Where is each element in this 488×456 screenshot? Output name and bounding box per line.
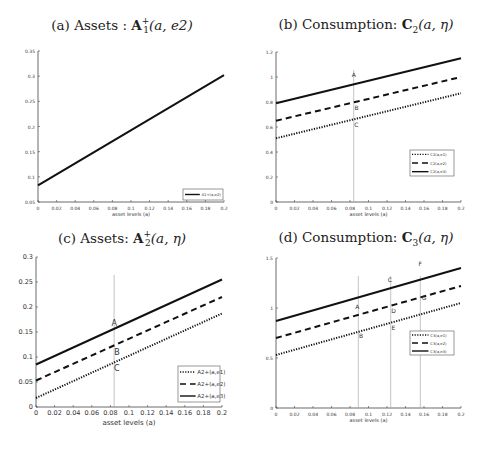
x-tick-label: 0.02	[47, 409, 61, 417]
x-tick-label: 0.2	[217, 409, 227, 417]
y-tick-label: 1	[270, 75, 273, 80]
legend-entry: C2(a,e1)	[430, 152, 447, 157]
x-tick-label: 0.04	[308, 412, 318, 417]
point-label: B	[114, 348, 120, 357]
legend-entry: C3(a,e2)	[430, 341, 447, 346]
y-tick-label: 0.6	[266, 125, 273, 130]
x-tick-label: 0.14	[400, 206, 410, 211]
x-tick-label: 0.2	[457, 206, 464, 211]
y-tick-label: 0.3	[28, 74, 35, 79]
point-label: A	[111, 319, 117, 328]
x-tick-label: 0.08	[103, 409, 117, 417]
y-tick-label: 0.2	[23, 303, 33, 311]
y-tick-label: 0.25	[25, 99, 35, 104]
panel-b: (b) Consumption: C2(a, η) 00.020.040.060…	[244, 0, 488, 228]
y-tick-label: 0.05	[19, 378, 33, 386]
panel-a: (a) Assets : A+1(a, e2) 00.020.040.060.0…	[0, 0, 244, 228]
x-tick-label: 0.1	[124, 409, 134, 417]
series-line-dotted	[276, 93, 461, 138]
x-tick-label: 0	[34, 409, 38, 417]
x-tick-label: 0.16	[178, 409, 192, 417]
plot-b: 00.020.040.060.080.10.120.140.160.180.20…	[244, 0, 488, 228]
legend-entry: A1+(a,e2)	[201, 192, 221, 197]
x-tick-label: 0.18	[437, 412, 447, 417]
plot-a: 00.020.040.060.080.10.120.140.160.180.20…	[0, 0, 244, 228]
x-tick-label: 0.02	[52, 206, 62, 211]
x-tick-label: 0.06	[326, 206, 336, 211]
y-tick-label: 0.8	[266, 100, 273, 105]
plot-c: 00.020.040.060.080.10.120.140.160.180.20…	[0, 228, 244, 456]
x-tick-label: 0	[37, 206, 40, 211]
x-tick-label: 0	[275, 412, 278, 417]
legend-entry: A2+(a,e3)	[197, 393, 225, 399]
y-tick-label: 0.35	[25, 49, 35, 54]
series-line-solid	[276, 58, 461, 103]
x-tick-label: 0.2	[220, 206, 227, 211]
x-axis-label: asset levels (a)	[112, 211, 150, 217]
x-axis-label: asset levels (a)	[102, 419, 155, 427]
x-tick-label: 0.12	[140, 409, 154, 417]
y-tick-label: 0.5	[266, 356, 273, 361]
point-label: G	[422, 294, 427, 301]
y-tick-label: 0	[29, 403, 33, 411]
y-tick-label: 1	[270, 306, 273, 311]
y-tick-label: 1.2	[266, 50, 273, 55]
x-tick-label: 0.18	[200, 206, 210, 211]
x-tick-label: 0.06	[89, 206, 99, 211]
x-axis-label: asset levels (a)	[350, 211, 388, 217]
point-label: B	[359, 332, 363, 339]
legend-entry: A2+(a,e1)	[197, 369, 225, 375]
x-tick-label: 0.14	[163, 206, 173, 211]
point-label: C	[114, 364, 120, 373]
y-tick-label: 0.1	[28, 175, 35, 180]
y-tick-label: 0.25	[19, 278, 33, 286]
x-tick-label: 0.16	[419, 412, 429, 417]
panel-d: (d) Consumption: C3(a, η) 00.020.040.060…	[244, 228, 488, 456]
y-tick-label: 1.5	[266, 256, 273, 261]
point-label: D	[391, 307, 396, 314]
x-tick-label: 0.2	[457, 412, 464, 417]
point-label: E	[392, 324, 396, 331]
x-tick-label: 0.16	[182, 206, 192, 211]
x-tick-label: 0	[275, 206, 278, 211]
point-label: F	[419, 260, 423, 267]
y-tick-label: 0.05	[25, 200, 35, 205]
x-tick-label: 0.16	[419, 206, 429, 211]
point-label: C	[354, 121, 358, 128]
point-label: B	[354, 104, 358, 111]
y-tick-label: 0	[270, 200, 273, 205]
point-label: A	[355, 303, 360, 310]
y-tick-label: 0.15	[19, 328, 33, 336]
x-tick-label: 0.18	[437, 206, 447, 211]
plot-d: 00.020.040.060.080.10.120.140.160.180.20…	[244, 228, 488, 456]
x-tick-label: 0.04	[70, 206, 80, 211]
y-tick-label: 0.2	[266, 175, 273, 180]
x-tick-label: 0.04	[308, 206, 318, 211]
y-tick-label: 0.1	[23, 353, 33, 361]
y-tick-label: 0.15	[25, 150, 35, 155]
legend-entry: C3(a,e3)	[430, 349, 447, 354]
x-tick-label: 0.02	[289, 206, 299, 211]
x-tick-label: 0.18	[196, 409, 210, 417]
series-line-dashed	[276, 77, 461, 121]
y-tick-label: 0.3	[23, 253, 33, 261]
legend-entry: C2(a,e3)	[430, 169, 447, 174]
series-line-solid	[38, 75, 224, 185]
legend-entry: A2+(a,e2)	[197, 381, 225, 387]
x-tick-label: 0.06	[326, 412, 336, 417]
y-tick-label: 0.4	[266, 150, 273, 155]
x-tick-label: 0.06	[85, 409, 99, 417]
legend-entry: C3(a,e1)	[430, 333, 447, 338]
panel-c: (c) Assets: A+2(a, η) 00.020.040.060.080…	[0, 228, 244, 456]
point-label: C	[388, 276, 392, 283]
legend-entry: C2(a,e2)	[430, 161, 447, 166]
y-tick-label: 0	[270, 406, 273, 411]
x-tick-label: 0.14	[400, 412, 410, 417]
x-tick-label: 0.04	[66, 409, 80, 417]
series-line-solid	[36, 280, 222, 365]
point-label: A	[352, 71, 357, 78]
x-tick-label: 0.02	[289, 412, 299, 417]
x-axis-label: asset levels (a)	[350, 417, 388, 423]
y-tick-label: 0.2	[28, 125, 35, 130]
x-tick-label: 0.14	[159, 409, 173, 417]
